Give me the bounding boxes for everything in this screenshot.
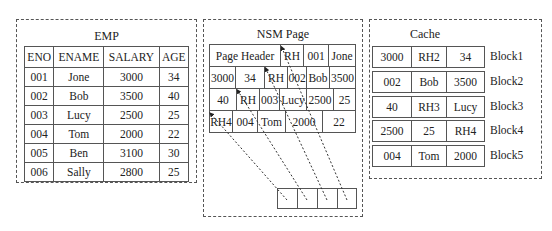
cache-cell: 40 (372, 96, 412, 118)
cache-cell: 2500 (372, 120, 412, 142)
cache-cell: Lucy (446, 96, 485, 118)
block-label: Block4 (490, 124, 523, 136)
cache-title: Cache (395, 27, 455, 42)
cache-cell: RH4 (446, 120, 485, 142)
block-label: Block2 (490, 75, 523, 87)
cache-cell: RH2 (411, 46, 447, 68)
cache-cell: 34 (446, 46, 485, 68)
cache-cell: 2000 (446, 145, 485, 167)
cache-cell: Bob (411, 71, 447, 93)
cache-cell: RH3 (411, 96, 447, 118)
cache-cell: Tom (411, 145, 447, 167)
cache-cell: 3500 (446, 71, 485, 93)
block-label: Block5 (490, 149, 523, 161)
block-label: Block1 (490, 50, 523, 62)
cache-cell: 002 (372, 71, 412, 93)
block-label: Block3 (490, 100, 523, 112)
cache-cell: 25 (411, 120, 447, 142)
cache-cell: 3000 (372, 46, 412, 68)
cache-cell: 004 (372, 145, 412, 167)
